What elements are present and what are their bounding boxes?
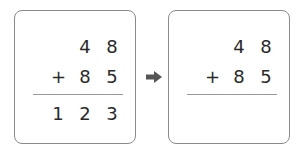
addend2-tens: 8 [232,68,246,86]
plus-operator: + [205,68,219,86]
addend2-tens: 8 [78,68,92,86]
sum-hundreds: 1 [51,105,65,123]
sum-line [33,94,123,95]
addend1-ones: 8 [105,38,119,56]
addend1-tens: 4 [78,38,92,56]
plus-operator: + [51,68,65,86]
sum-line [187,94,277,95]
addend1-ones: 8 [259,38,273,56]
addend2-ones: 5 [259,68,273,86]
right-arrow-icon [146,71,162,83]
addend1-tens: 4 [232,38,246,56]
blank-addition-card: 4 8 + 8 5 [168,10,290,144]
completed-addition-card: 4 8 + 8 5 1 2 3 [14,10,136,144]
addend2-ones: 5 [105,68,119,86]
sum-tens: 2 [78,105,92,123]
sum-ones: 3 [105,105,119,123]
